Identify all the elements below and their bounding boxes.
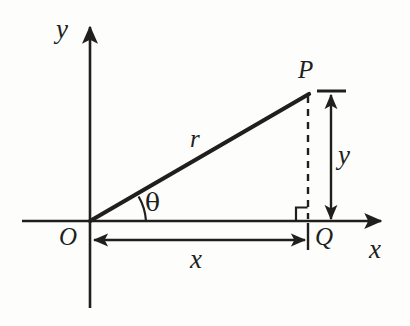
x-axis-label: x	[369, 236, 381, 263]
theta-angle-label: θ	[145, 190, 160, 215]
origin-label: O	[59, 224, 77, 249]
point-q-label: Q	[315, 224, 333, 249]
right-angle-marker	[296, 208, 308, 221]
vertical-leg-label: y	[338, 142, 350, 169]
trigonometry-diagram: y x O P Q r y x θ	[0, 0, 410, 326]
hypotenuse-label: r	[190, 126, 200, 151]
y-axis-label: y	[56, 16, 68, 43]
point-p-label: P	[298, 57, 313, 82]
hypotenuse-segment	[90, 94, 309, 221]
horizontal-leg-label: x	[190, 246, 202, 273]
